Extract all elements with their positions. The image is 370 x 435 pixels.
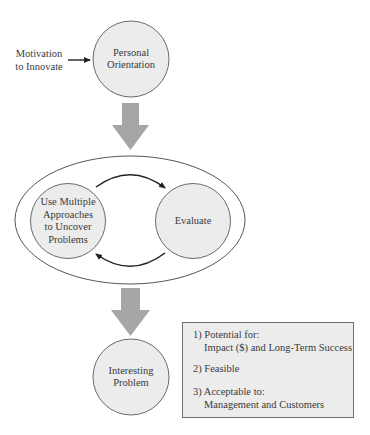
criteria-item1-detail: Impact ($) and Long-Term Success	[204, 342, 352, 354]
criteria-item3-detail: Management and Customers	[204, 399, 324, 411]
personal-orientation-label: Personal Orientation	[93, 21, 169, 97]
personal-orientation-line2: Orientation	[107, 59, 155, 72]
interesting-problem-line2: Problem	[113, 377, 149, 390]
personal-orientation-line1: Personal	[113, 47, 149, 60]
evaluate-line1: Evaluate	[175, 215, 212, 228]
approaches-line4: Problems	[48, 234, 88, 247]
use-multiple-approaches-label: Use Multiple Approaches to Uncover Probl…	[30, 183, 106, 259]
motivation-line2: to Innovate	[8, 61, 70, 74]
approaches-line1: Use Multiple	[40, 196, 95, 209]
evaluate-label: Evaluate	[155, 183, 231, 259]
down-block-arrow-1	[112, 103, 149, 150]
interesting-problem-label: Interesting Problem	[93, 339, 169, 415]
motivation-label: Motivation to Innovate	[8, 48, 70, 73]
approaches-line3: to Uncover	[45, 221, 92, 234]
down-block-arrow-2	[111, 288, 150, 336]
criteria-box: 1) Potential for: Impact ($) and Long-Te…	[182, 322, 354, 418]
criteria-item3-title: 3) Acceptable to:	[193, 386, 265, 398]
interesting-problem-line1: Interesting	[109, 365, 154, 378]
criteria-item2-title: 2) Feasible	[193, 363, 239, 375]
motivation-line1: Motivation	[8, 48, 70, 61]
approaches-line2: Approaches	[43, 209, 93, 222]
criteria-item1-title: 1) Potential for:	[193, 329, 260, 341]
